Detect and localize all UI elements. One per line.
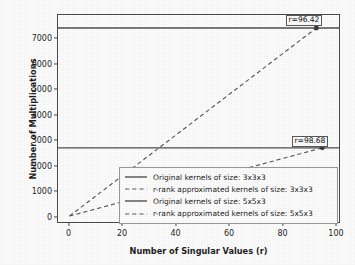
annotation-r-96-42: r=96.42 [286,15,322,26]
legend-swatch-solid-icon [124,196,148,206]
x-tick-label: 80 [277,229,287,238]
legend: Original kernels of size: 3x3x3 r-rank a… [119,167,338,224]
x-tick-label: 20 [117,229,127,238]
legend-swatch-dashed-icon [124,209,148,219]
legend-item-approx-3x3x3: r-rank approximated kernels of size: 3x3… [124,183,333,195]
legend-item-original-5x5x3: Original kernels of size: 5x5x3 [124,195,333,207]
x-tick-label: 60 [224,229,234,238]
plot-area: r=96.42 r=98.68 Original kernels of size… [57,14,340,223]
x-tick-label: 100 [328,229,343,238]
data-point-marker-96-42[interactable] [314,25,319,30]
legend-label: Original kernels of size: 5x5x3 [153,197,266,206]
x-axis-label: Number of Singular Values (r) [57,246,340,256]
legend-label: r-rank approximated kernels of size: 5x5… [153,209,313,218]
legend-item-original-3x3x3: Original kernels of size: 3x3x3 [124,171,333,183]
legend-item-approx-5x5x3: r-rank approximated kernels of size: 5x5… [124,208,333,220]
legend-label: r-rank approximated kernels of size: 3x3… [153,185,313,194]
legend-swatch-dashed-icon [124,184,148,194]
y-axis-ticks: 0 1000 2000 3000 4000 5000 6000 7000 [0,0,57,265]
legend-swatch-solid-icon [124,172,148,182]
figure-canvas: Number of Multiplications 0 1000 2000 30… [0,0,355,265]
legend-label: Original kernels of size: 3x3x3 [153,173,266,182]
x-tick-label: 40 [170,229,180,238]
annotation-r-98-68: r=98.68 [292,136,328,147]
x-tick-label: 0 [66,229,71,238]
